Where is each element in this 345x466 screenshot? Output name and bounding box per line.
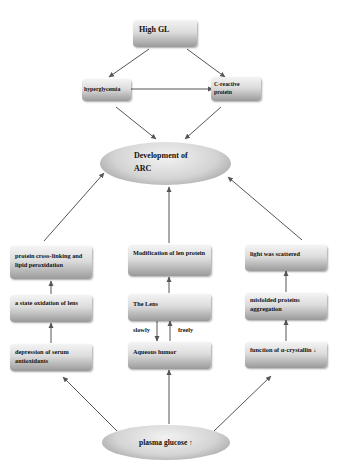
arrow-creactive-arc bbox=[185, 107, 221, 139]
node-protein-crosslinking: protein cross-linking and lipid peroxida… bbox=[10, 246, 92, 279]
node-protein-crosslinking-text: protein cross-linking and lipid peroxida… bbox=[15, 252, 82, 268]
arrow-highgl-creactive bbox=[187, 49, 225, 77]
node-development-of-arc-line1: Development of bbox=[134, 149, 231, 162]
edge-label-freely: freely bbox=[178, 326, 193, 333]
node-function-crystallin-text: function of α-crystallin ↓ bbox=[250, 346, 316, 353]
node-the-lens: The Lens bbox=[128, 294, 211, 321]
arrow-scattered-arc bbox=[228, 177, 302, 240]
node-development-of-arc: Development of ARC bbox=[100, 142, 231, 185]
arrow-crosslinking-arc bbox=[44, 173, 104, 241]
node-high-gl: High GL bbox=[133, 20, 197, 47]
node-plasma-glucose: plasma glucose ↑ bbox=[102, 425, 230, 460]
node-modification-lens-protein: Modification of len protein bbox=[128, 245, 211, 276]
node-depression-antioxidants-text: depression of serum antioxidants bbox=[15, 348, 69, 364]
arrow-hyperglycemia-arc bbox=[116, 107, 156, 139]
node-misfolded-proteins: misfolded proteins aggregation bbox=[245, 293, 327, 320]
node-development-of-arc-line2: ARC bbox=[134, 162, 231, 175]
node-light-scattered: light was scattered bbox=[245, 245, 327, 271]
node-depression-antioxidants: depression of serum antioxidants bbox=[10, 344, 92, 371]
node-state-oxidation-text: a state oxidation of lens bbox=[15, 299, 78, 306]
node-c-reactive-protein-text: C-reactive protein bbox=[214, 81, 240, 95]
node-aqueous-humor-text: Aqueous humor bbox=[133, 348, 176, 355]
arrow-plasma-depression bbox=[63, 377, 117, 431]
node-hyperglycemia-text: hyperglycemia bbox=[84, 86, 120, 92]
arrow-highgl-hyperglycemia bbox=[109, 49, 149, 77]
arrows-layer bbox=[0, 0, 345, 466]
arrow-plasma-function bbox=[214, 376, 271, 431]
node-aqueous-humor: Aqueous humor bbox=[128, 342, 211, 369]
node-high-gl-text: High GL bbox=[139, 25, 169, 34]
node-the-lens-text: The Lens bbox=[133, 300, 158, 307]
node-misfolded-proteins-text: misfolded proteins aggregation bbox=[250, 296, 300, 312]
node-function-crystallin: function of α-crystallin ↓ bbox=[245, 342, 327, 368]
node-state-oxidation: a state oxidation of lens bbox=[10, 295, 92, 322]
node-modification-lens-protein-text: Modification of len protein bbox=[133, 249, 205, 256]
node-plasma-glucose-text: plasma glucose ↑ bbox=[139, 438, 193, 447]
node-hyperglycemia: hyperglycemia bbox=[82, 79, 131, 101]
node-light-scattered-text: light was scattered bbox=[250, 250, 300, 257]
node-c-reactive-protein: C-reactive protein bbox=[211, 77, 261, 101]
edge-label-slowly: slowly bbox=[133, 326, 150, 333]
